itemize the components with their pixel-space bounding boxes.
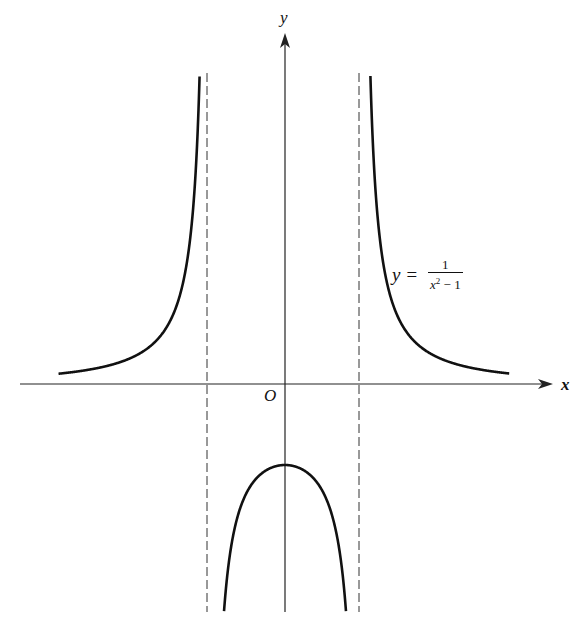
- equation-denominator: x2 − 1: [428, 272, 463, 292]
- function-annotation: y = 1 x2 − 1: [392, 258, 463, 292]
- origin-label: O: [264, 386, 276, 406]
- y-axis-label: y: [280, 8, 288, 28]
- plot-area: [0, 0, 584, 625]
- graph-figure: y x O y = 1 x2 − 1: [0, 0, 584, 625]
- equation-fraction: 1 x2 − 1: [428, 258, 463, 292]
- equation-lhs: y =: [392, 264, 418, 286]
- equation-den-rest: − 1: [440, 277, 460, 292]
- curve-right-branch: [370, 76, 509, 374]
- curve-left-branch: [59, 77, 200, 374]
- x-axis-label: x: [561, 375, 570, 395]
- equation-numerator: 1: [440, 258, 451, 272]
